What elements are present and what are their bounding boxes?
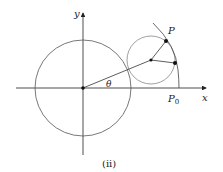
radius-to-P [151, 41, 166, 60]
angle-theta-label: θ [106, 79, 112, 89]
radius-to-contact [151, 60, 175, 63]
point-P0-subscript: 0 [175, 98, 179, 106]
diagram-canvas: y x θ P P0 (ii) [0, 0, 223, 172]
point-P0-label: P0 [167, 93, 179, 106]
point-P-label: P [167, 25, 175, 36]
origin-point [81, 86, 85, 90]
point-P [164, 39, 168, 43]
figure-caption: (ii) [102, 158, 116, 169]
small-center-point [149, 58, 152, 61]
center-line [83, 60, 151, 88]
contact-point [173, 61, 177, 65]
x-axis-label: x [202, 92, 208, 103]
y-axis-label: y [73, 8, 80, 19]
